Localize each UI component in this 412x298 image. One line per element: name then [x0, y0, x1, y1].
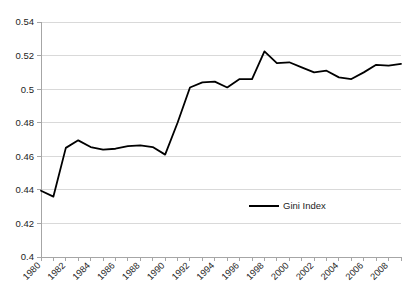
x-tick-label: 2000: [269, 260, 291, 282]
x-tick-label: 1982: [46, 260, 68, 282]
data-series-group: [41, 51, 401, 196]
y-tick-label: 0.52: [16, 50, 35, 61]
y-axis-tick-labels: 0.40.420.440.460.480.50.520.54: [16, 16, 35, 262]
x-tick-label: 1996: [220, 260, 242, 282]
y-tick-label: 0.44: [16, 184, 35, 195]
x-tick-label: 1984: [71, 260, 93, 282]
y-tick-marks: [37, 22, 41, 257]
x-tick-label: 1994: [195, 260, 217, 282]
clipped-title-text: [6, 0, 406, 7]
y-tick-label: 0.4: [21, 251, 34, 262]
y-tick-label: 0.54: [16, 16, 35, 27]
legend-label: Gini Index: [283, 200, 326, 211]
x-tick-label: 1988: [120, 260, 142, 282]
gini-index-line-chart: 0.40.420.440.460.480.50.520.54 198019821…: [0, 0, 412, 298]
x-tick-label: 1992: [170, 260, 192, 282]
y-tick-label: 0.42: [16, 218, 35, 229]
y-tick-label: 0.5: [21, 84, 34, 95]
y-tick-label: 0.48: [16, 117, 35, 128]
x-tick-label: 1998: [244, 260, 266, 282]
x-tick-label: 1980: [21, 260, 43, 282]
x-tick-marks: [41, 257, 401, 261]
x-tick-label: 1986: [95, 260, 117, 282]
y-gridlines: [41, 22, 401, 257]
chart-canvas: 0.40.420.440.460.480.50.520.54 198019821…: [0, 0, 412, 298]
x-tick-label: 2004: [319, 260, 341, 282]
series-line-gini-index: [41, 51, 401, 196]
x-tick-label: 2006: [344, 260, 366, 282]
x-tick-label: 2008: [368, 260, 390, 282]
chart-legend: Gini Index: [249, 200, 326, 211]
x-tick-label: 1990: [145, 260, 167, 282]
y-tick-label: 0.46: [16, 151, 35, 162]
x-tick-label: 2002: [294, 260, 316, 282]
x-axis-tick-labels: 1980198219841986198819901992199419961998…: [21, 260, 390, 282]
